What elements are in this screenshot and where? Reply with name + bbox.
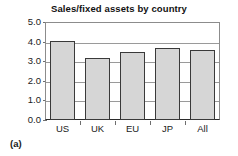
y-axis: 0.01.02.03.04.05.0 [0,22,41,120]
bar-uk [85,58,110,120]
x-tick-label-jp: JP [150,123,185,134]
figure-panel: Sales/fixed assets by country 0.01.02.03… [0,0,238,156]
x-axis: USUKEUJPAll [45,121,220,137]
x-tick-label-uk: UK [80,123,115,134]
y-tick-label: 3.0 [0,56,41,66]
bar-us [50,41,75,120]
panel-caption: (a) [10,138,22,149]
y-tick-label: 0.0 [0,115,41,125]
bar-eu [120,52,145,120]
bar-jp [155,48,180,120]
x-tick-label-eu: EU [115,123,150,134]
x-tick-label-us: US [45,123,80,134]
x-tick-label-all: All [185,123,220,134]
y-tick-label: 2.0 [0,76,41,86]
chart-title: Sales/fixed assets by country [0,3,238,14]
y-tick-label: 1.0 [0,95,41,105]
bar-all [190,50,215,120]
y-tick-label: 4.0 [0,37,41,47]
bars-layer [45,22,220,120]
y-tick-label: 5.0 [0,17,41,27]
